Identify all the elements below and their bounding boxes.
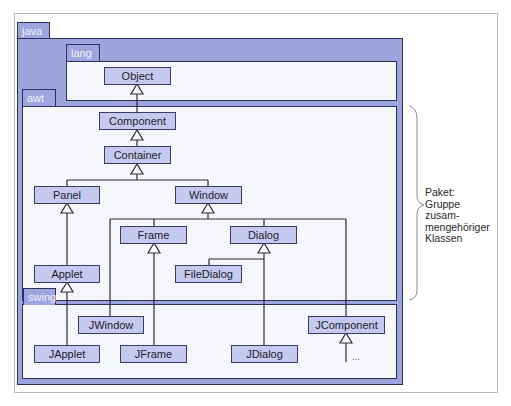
class-jframe: JFrame — [120, 345, 187, 363]
class-jdialog: JDialog — [231, 345, 298, 363]
class-applet: Applet — [34, 265, 100, 283]
class-container: Container — [104, 146, 171, 164]
class-object: Object — [104, 67, 171, 85]
annotation-line: Klassen — [425, 233, 490, 245]
annotation-line: Paket: — [425, 187, 490, 199]
class-panel: Panel — [34, 186, 100, 204]
more-subclasses-ellipsis: ... — [352, 352, 360, 362]
class-jcomponent: JComponent — [308, 316, 385, 334]
class-filedialog: FileDialog — [175, 265, 242, 283]
class-frame: Frame — [120, 226, 187, 244]
package-annotation: Paket: Gruppe zusam- mengehöriger Klasse… — [425, 187, 490, 245]
class-window: Window — [175, 186, 242, 204]
class-dialog: Dialog — [230, 226, 297, 244]
class-component: Component — [99, 112, 176, 130]
annotation-line: zusam- — [425, 210, 490, 222]
class-jwindow: JWindow — [78, 316, 144, 334]
class-japplet: JApplet — [34, 345, 100, 363]
